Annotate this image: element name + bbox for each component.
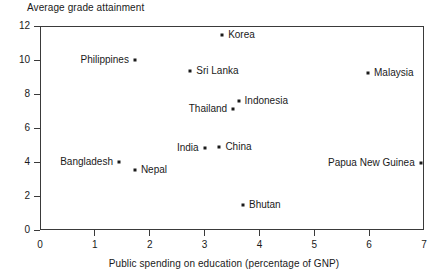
x-tick-label-0: 0 <box>30 240 50 250</box>
y-tick-label-4: 4 <box>4 157 30 167</box>
x-tick-label-3: 3 <box>195 240 215 250</box>
data-point <box>218 145 221 148</box>
y-tick-mark-10 <box>34 60 40 61</box>
data-point-label: Korea <box>228 30 255 40</box>
data-point-label: Papua New Guinea <box>328 158 415 168</box>
x-tick-label-4: 4 <box>249 240 269 250</box>
y-tick-mark-2 <box>34 196 40 197</box>
data-point <box>367 71 370 74</box>
data-point <box>237 99 240 102</box>
y-tick-label-2: 2 <box>4 191 30 201</box>
y-axis-title: Average grade attainment <box>27 2 144 13</box>
y-tick-mark-8 <box>34 94 40 95</box>
y-tick-mark-12 <box>34 26 40 27</box>
data-point-label: Bhutan <box>249 200 281 210</box>
data-point <box>241 203 244 206</box>
scatter-plot-figure: Average grade attainment 024681012 01234… <box>0 0 448 280</box>
x-tick-label-1: 1 <box>85 240 105 250</box>
data-point-label: Nepal <box>141 165 167 175</box>
y-tick-label-0: 0 <box>4 225 30 235</box>
x-tick-mark-3 <box>204 230 205 236</box>
x-tick-mark-4 <box>259 230 260 236</box>
y-tick-mark-6 <box>34 128 40 129</box>
data-point <box>203 147 206 150</box>
y-tick-label-6: 6 <box>4 123 30 133</box>
y-tick-mark-0 <box>34 230 40 231</box>
data-point <box>232 108 235 111</box>
data-point-label: Indonesia <box>245 96 288 106</box>
x-tick-mark-1 <box>94 230 95 236</box>
data-point-label: India <box>177 143 199 153</box>
data-point-label: Philippines <box>81 55 129 65</box>
x-tick-label-5: 5 <box>304 240 324 250</box>
y-tick-label-8: 8 <box>4 89 30 99</box>
x-axis-title: Public spending on education (percentage… <box>0 258 448 269</box>
x-tick-mark-2 <box>149 230 150 236</box>
data-point-label: Thailand <box>189 104 227 114</box>
y-tick-label-12: 12 <box>4 21 30 31</box>
y-tick-label-10: 10 <box>4 55 30 65</box>
data-point-label: Malaysia <box>374 68 413 78</box>
x-tick-mark-6 <box>369 230 370 236</box>
data-point <box>419 161 422 164</box>
data-point-label: China <box>225 142 251 152</box>
x-tick-label-6: 6 <box>359 240 379 250</box>
data-point <box>117 161 120 164</box>
x-tick-label-2: 2 <box>140 240 160 250</box>
data-point <box>133 59 136 62</box>
data-point <box>221 33 224 36</box>
data-point-label: Bangladesh <box>60 157 113 167</box>
x-tick-label-7: 7 <box>414 240 434 250</box>
x-tick-mark-5 <box>314 230 315 236</box>
y-tick-mark-4 <box>34 162 40 163</box>
data-point-label: Sri Lanka <box>196 66 238 76</box>
data-point <box>189 70 192 73</box>
data-point <box>133 169 136 172</box>
